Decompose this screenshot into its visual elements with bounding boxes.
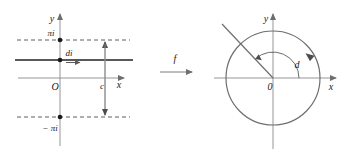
domain-vertical-line-label: c: [100, 81, 104, 91]
domain-point-minus-pi-i: [58, 115, 63, 120]
domain-horizontal-line-label: di: [65, 48, 73, 58]
figure-container: y x O πi − πi di c f: [0, 0, 350, 155]
image-origin-label: 0: [268, 81, 273, 92]
map-arrow-label: f: [174, 53, 178, 64]
domain-lower-boundary-label: − πi: [42, 123, 58, 133]
domain-x-axis-label: x: [116, 79, 122, 90]
domain-plane: y x O πi − πi di c: [15, 13, 133, 146]
domain-upper-boundary-label: πi: [47, 28, 55, 38]
domain-point-pi-i: [58, 38, 63, 43]
map-arrow: f: [160, 53, 192, 72]
image-y-axis-label: y: [263, 13, 269, 24]
image-angle-arc: [255, 52, 299, 78]
image-x-axis-label: x: [328, 81, 334, 92]
domain-y-axis-label: y: [49, 13, 55, 24]
image-angle-label: d: [295, 59, 301, 70]
diagram-svg: y x O πi − πi di c f: [0, 0, 350, 155]
domain-origin-label: O: [51, 81, 58, 92]
image-plane: y x 0 d: [214, 13, 336, 149]
domain-point-di: [58, 58, 63, 63]
